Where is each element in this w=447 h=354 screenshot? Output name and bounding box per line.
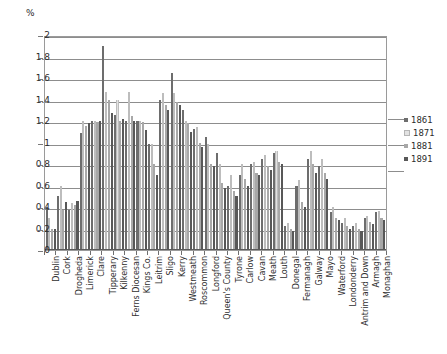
x-axis-label-cell: Armagh [364,256,375,352]
legend-connector-line [388,171,404,172]
legend-label: 1871 [413,128,435,138]
legend-label: 1891 [411,154,433,164]
y-axis-tick-mark [38,58,43,59]
x-axis-tick-mark [216,251,227,255]
x-axis-category-labels: DublinCorkDroghedaLimerickClareTipperary… [44,256,387,352]
x-axis-tick-mark [204,251,215,255]
y-axis-tick-label: 2 [44,30,50,40]
y-axis-tick-mark [38,101,43,102]
x-axis-label-cell: Mayo [319,256,330,352]
x-axis-label-cell: Tyrone [227,256,238,352]
legend-item[interactable]: 1891 [404,152,447,165]
x-axis-label-cell: Galway [307,256,318,352]
x-axis-label-cell: Londonderry [341,256,352,352]
x-axis-tick-mark [284,251,295,255]
x-axis-label-cell: Leitrim [147,256,158,352]
x-axis-tick-mark [296,251,307,255]
legend-item[interactable]: 1861 [404,113,447,126]
x-axis-tick-mark [273,251,284,255]
y-axis-tick-mark [38,144,43,145]
x-axis-tick-mark [101,251,112,255]
x-axis-label-cell: Carlow [238,256,249,352]
bar-group [102,37,113,250]
y-axis-tick-mark [38,36,43,37]
x-axis-tick-mark [193,251,204,255]
legend-label: 1881 [411,141,433,151]
x-axis-label-cell: Limerick [78,256,89,352]
x-axis-tick-marks [44,251,387,255]
x-axis-label-cell: Clare [90,256,101,352]
bar-group [329,37,340,250]
legend-swatch [404,118,408,122]
y-axis-tick-label: 0.4 [36,202,50,212]
x-axis-label-cell: Waterford [330,256,341,352]
x-axis-tick-mark [44,251,55,255]
bar-group [79,37,90,250]
x-axis-label-cell: Kerry [170,256,181,352]
y-axis-tick-label: 1 [44,138,50,148]
y-axis-tick-mark [38,208,43,209]
y-axis-tick-mark [38,79,43,80]
legend-swatch [404,144,408,148]
y-axis-tick-mark [38,165,43,166]
x-axis-tick-mark [158,251,169,255]
x-axis-tick-mark [307,251,318,255]
x-axis-label-cell: Cork [55,256,66,352]
bar-group [170,37,181,250]
x-axis-tick-mark [319,251,330,255]
x-axis-label-cell: Kings Co. [136,256,147,352]
x-axis-label-cell: Louth [273,256,284,352]
x-axis-tick-mark [67,251,78,255]
y-axis-tick-label: 0.8 [36,159,50,169]
legend: 1861187118811891 [404,113,447,165]
y-axis-tick-label: 1.4 [36,95,50,105]
bar-group [204,37,215,250]
x-axis-category-label: Monaghan [384,256,392,298]
legend-connector-line [388,119,404,120]
legend-item[interactable]: 1881 [404,139,447,152]
x-axis-label-cell: Drogheda [67,256,78,352]
bar-group [238,37,249,250]
bar-group [56,37,67,250]
x-axis-tick-mark [261,251,272,255]
x-axis-tick-mark [341,251,352,255]
x-axis-label-cell: Tipperary [101,256,112,352]
x-axis-label-cell: Ferns Diocesan [124,256,135,352]
bar-group [227,37,238,250]
x-axis-label-cell: Queen's County [216,256,227,352]
bar-group [318,37,329,250]
x-axis-tick-mark [330,251,341,255]
y-axis-tick-mark [38,230,43,231]
legend-swatch [404,130,410,136]
x-axis-tick-mark [90,251,101,255]
bar-group [249,37,260,250]
x-axis-tick-mark [78,251,89,255]
legend-item[interactable]: 1871 [404,126,447,139]
bar-group [215,37,226,250]
legend-swatch [404,157,408,161]
bar-group [147,37,158,250]
bar-group [284,37,295,250]
x-axis-tick-mark [353,251,364,255]
x-axis-label-cell: Meath [261,256,272,352]
bar-group [363,37,374,250]
y-axis-tick-mark [38,122,43,123]
bar-group [272,37,283,250]
x-axis-tick-mark [170,251,181,255]
x-axis-label-cell: Westmeath [181,256,192,352]
x-axis-label-cell: Longford [204,256,215,352]
y-axis-tick-mark [38,251,43,252]
bar-group [125,37,136,250]
x-axis-tick-mark [55,251,66,255]
plot-area [44,36,387,251]
bar-groups [45,37,386,250]
bar-group [306,37,317,250]
x-axis-tick-mark [147,251,158,255]
y-axis-unit-label: % [26,8,35,18]
legend-connector-line [388,145,404,146]
y-axis-tick-label: 0.2 [36,224,50,234]
x-axis-label-cell: Roscommon [193,256,204,352]
bar-group [181,37,192,250]
x-axis-tick-mark [238,251,249,255]
x-axis-label-cell: Antrim and Down [353,256,364,352]
